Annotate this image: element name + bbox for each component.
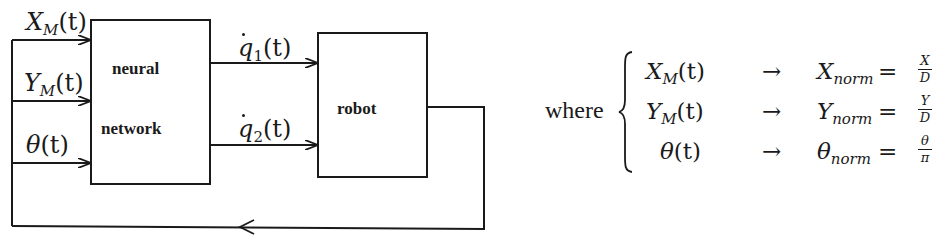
eq-y-fraction: YD xyxy=(918,94,932,124)
eq-theta-fraction: θπ xyxy=(918,134,932,164)
eq-x-equals: = xyxy=(878,58,897,84)
eq-x-lhs-sub: M xyxy=(662,70,677,88)
eq-theta-equals: = xyxy=(878,138,897,164)
eq-x-rhs-symbol: X xyxy=(817,58,833,84)
eq-theta-rhs-symbol: θ xyxy=(817,138,831,164)
eq-theta-rhs-sub: norm xyxy=(831,150,871,168)
equation-row-y: YM(t) → Ynorm = YD xyxy=(0,98,949,134)
eq-x-lhs-arg: (t) xyxy=(678,58,705,84)
x-subscript: M xyxy=(43,21,58,39)
eq-x-rhs: Xnorm xyxy=(817,58,873,88)
eq-x-fraction: XD xyxy=(918,54,932,84)
equation-row-theta: θ(t) → θnorm = θπ xyxy=(0,138,949,174)
eq-theta-arrow: → xyxy=(762,138,781,164)
eq-y-lhs-sub: M xyxy=(661,110,676,128)
q1-symbol: q xyxy=(238,36,253,60)
equation-row-x: XM(t) → Xnorm = XD xyxy=(0,58,949,94)
eq-x-lhs-symbol: X xyxy=(646,58,662,84)
eq-y-equals: = xyxy=(878,98,897,124)
eq-x-numerator: X xyxy=(920,54,929,68)
eq-x-denominator: D xyxy=(920,71,930,85)
eq-x-arrow: → xyxy=(762,58,781,84)
eq-y-denominator: D xyxy=(920,111,930,125)
eq-y-lhs-arg: (t) xyxy=(677,98,704,124)
eq-y-rhs-symbol: Y xyxy=(817,98,832,124)
eq-y-rhs-sub: norm xyxy=(832,110,872,128)
x-arg: (t) xyxy=(58,8,86,36)
eq-y-arrow: → xyxy=(762,98,781,124)
eq-y-lhs: YM(t) xyxy=(646,98,704,128)
eq-theta-lhs-symbol: θ xyxy=(660,138,674,164)
eq-y-rhs: Ynorm xyxy=(817,98,872,128)
input-label-x: XM(t) xyxy=(26,10,87,38)
x-symbol: X xyxy=(26,8,43,36)
eq-x-rhs-sub: norm xyxy=(833,70,873,88)
eq-x-lhs: XM(t) xyxy=(646,58,705,88)
eq-theta-denominator: π xyxy=(921,151,930,165)
eq-y-lhs-symbol: Y xyxy=(646,98,661,124)
eq-theta-lhs-arg: (t) xyxy=(674,138,701,164)
eq-theta-lhs: θ(t) xyxy=(660,138,701,164)
eq-theta-numerator: θ xyxy=(921,134,929,148)
eq-y-numerator: Y xyxy=(921,94,930,108)
eq-theta-rhs: θnorm xyxy=(817,138,871,168)
